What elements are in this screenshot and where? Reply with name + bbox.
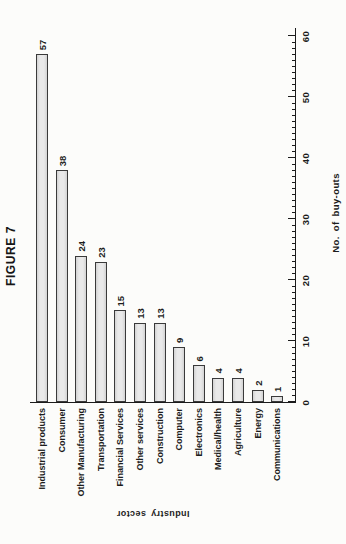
category-label: Industrial products [37, 408, 47, 544]
value-axis-minor-tick [292, 139, 296, 140]
value-axis-minor-tick [292, 60, 296, 61]
bar [154, 323, 166, 402]
value-axis-minor-tick [292, 298, 296, 299]
value-axis-minor-tick [292, 255, 296, 256]
figure-title: FIGURE 7 [4, 226, 18, 286]
value-axis-minor-tick [292, 353, 296, 354]
value-axis-minor-tick [292, 84, 296, 85]
value-axis-minor-tick [292, 194, 296, 195]
value-axis-minor-tick [292, 182, 296, 183]
category-label: Other services [135, 408, 145, 544]
bar [56, 170, 68, 402]
value-axis-major-tick [288, 158, 295, 159]
bar-value-label: 13 [135, 308, 146, 319]
value-axis-minor-tick [292, 237, 296, 238]
figure-canvas: FIGURE 7 No. of buy-outs Industry sector… [0, 0, 346, 544]
scanned-page: FIGURE 7 No. of buy-outs Industry sector… [0, 0, 346, 544]
value-axis-minor-tick [292, 225, 296, 226]
bar-value-label: 4 [213, 368, 224, 373]
value-axis-minor-tick [292, 334, 296, 335]
bar-value-label: 1 [272, 387, 283, 392]
value-axis-minor-tick [292, 328, 296, 329]
value-axis-tick-label: 40 [300, 153, 311, 165]
bar-value-label: 23 [95, 247, 106, 258]
value-axis-minor-tick [292, 176, 296, 177]
bar [134, 323, 146, 402]
value-axis-minor-tick [292, 286, 296, 287]
value-axis-tick-label: 0 [300, 400, 311, 406]
bar-value-label: 15 [115, 296, 126, 307]
value-axis-minor-tick [292, 371, 296, 372]
value-axis-label: No. of buy-outs [330, 173, 341, 253]
bar-value-label: 9 [174, 338, 185, 343]
bar [36, 54, 48, 402]
value-axis-minor-tick [292, 206, 296, 207]
bar [114, 311, 126, 403]
bar [252, 390, 264, 402]
value-axis-major-tick [288, 219, 295, 220]
value-axis-minor-tick [292, 389, 296, 390]
value-axis-minor-tick [292, 243, 296, 244]
value-axis-minor-tick [292, 72, 296, 73]
bar [232, 378, 244, 402]
category-label: Transportation [96, 408, 106, 544]
value-axis-minor-tick [292, 170, 296, 171]
category-label: Energy [253, 408, 263, 544]
value-axis-minor-tick [292, 188, 296, 189]
value-axis-minor-tick [292, 109, 296, 110]
bar [75, 256, 87, 402]
value-axis-minor-tick [292, 78, 296, 79]
value-axis-tick-label: 60 [300, 31, 311, 43]
bar [95, 262, 107, 402]
value-axis-minor-tick [292, 66, 296, 67]
category-label: Communications [272, 408, 282, 544]
value-axis-minor-tick [292, 164, 296, 165]
value-axis-minor-tick [292, 377, 296, 378]
value-axis-minor-tick [292, 267, 296, 268]
value-axis-minor-tick [292, 127, 296, 128]
value-axis-minor-tick [292, 231, 296, 232]
value-axis-minor-tick [292, 121, 296, 122]
bar-value-label: 24 [76, 241, 87, 252]
category-label: Medical/health [213, 408, 223, 544]
value-axis-minor-tick [292, 304, 296, 305]
value-axis-tick-label: 30 [300, 214, 311, 226]
bar-value-label: 2 [252, 381, 263, 386]
value-axis-major-tick [288, 36, 295, 37]
bar-value-label: 6 [193, 356, 204, 361]
bar [173, 347, 185, 402]
value-axis-tick-label: 50 [300, 92, 311, 104]
value-axis-major-tick [288, 97, 295, 98]
value-axis-minor-tick [292, 322, 296, 323]
value-axis-minor-tick [292, 133, 296, 134]
value-axis-minor-tick [292, 383, 296, 384]
value-axis-tick-label: 10 [300, 336, 311, 348]
value-axis-tick-label: 20 [300, 275, 311, 287]
bar [271, 396, 283, 402]
bar-value-label: 4 [233, 368, 244, 373]
bar [212, 378, 224, 402]
value-axis-minor-tick [292, 115, 296, 116]
category-label: Construction [155, 408, 165, 544]
value-axis-minor-tick [292, 261, 296, 262]
bar-value-label: 38 [56, 156, 67, 167]
value-axis-minor-tick [292, 103, 296, 104]
value-axis-minor-tick [292, 48, 296, 49]
value-axis-minor-tick [292, 359, 296, 360]
value-axis-minor-tick [292, 90, 296, 91]
value-axis-minor-tick [292, 212, 296, 213]
value-axis-minor-tick [292, 310, 296, 311]
value-axis-minor-tick [292, 151, 296, 152]
value-axis-major-tick [288, 341, 295, 342]
value-axis-minor-tick [292, 54, 296, 55]
value-axis-minor-tick [292, 292, 296, 293]
category-label: Consumer [57, 408, 67, 544]
category-label: Electronics [194, 408, 204, 544]
value-axis-minor-tick [292, 145, 296, 146]
category-label: Financial Services [115, 408, 125, 544]
value-axis-minor-tick [292, 273, 296, 274]
value-axis-minor-tick [292, 200, 296, 201]
category-label: Agriculture [233, 408, 243, 544]
value-axis-minor-tick [292, 347, 296, 348]
value-axis-line [295, 28, 296, 403]
